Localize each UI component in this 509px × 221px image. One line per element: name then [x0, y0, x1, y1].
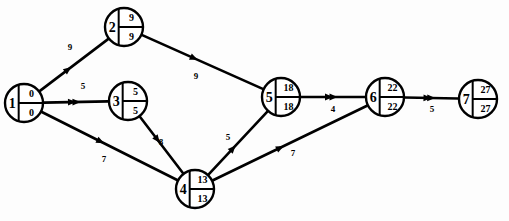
edge-arrowhead [72, 99, 80, 106]
edge-weight-label: 9 [68, 42, 73, 52]
node-earliest-time: 9 [129, 12, 134, 23]
edge-weight-label: 4 [331, 104, 336, 114]
node-3[interactable]: 355 [109, 82, 147, 120]
node-id-label: 3 [113, 94, 120, 109]
node-id-label: 4 [180, 182, 187, 197]
edge-weight-label: 8 [159, 137, 164, 147]
edge-5-6 [301, 94, 365, 101]
node-latest-time: 5 [133, 105, 138, 116]
node-2[interactable]: 299 [105, 8, 143, 46]
edge-2-5 [142, 35, 262, 89]
node-1[interactable]: 100 [5, 84, 43, 122]
node-earliest-time: 0 [29, 88, 34, 99]
node-earliest-time: 13 [198, 174, 208, 185]
node-5[interactable]: 51818 [262, 78, 300, 116]
edge-line [213, 106, 367, 181]
node-id-label: 6 [370, 90, 377, 105]
node-latest-time: 18 [284, 101, 294, 112]
node-id-label: 7 [463, 92, 470, 107]
network-diagram-canvas: 10029935541313518186222272727 957985745 [0, 0, 509, 221]
node-earliest-time: 27 [481, 84, 491, 95]
edge-arrowhead [329, 94, 337, 101]
edge-weight-label: 7 [291, 148, 296, 158]
node-earliest-time: 18 [284, 82, 294, 93]
node-6[interactable]: 62222 [366, 78, 404, 116]
edge-line [42, 112, 177, 180]
node-7[interactable]: 72727 [459, 80, 497, 118]
edge-weight-label: 5 [430, 104, 435, 114]
edge-weight-label: 9 [194, 71, 199, 81]
nodes-layer: 10029935541313518186222272727 [5, 8, 497, 208]
node-id-label: 2 [109, 20, 116, 35]
node-earliest-time: 5 [133, 86, 138, 97]
edge-line [209, 112, 268, 175]
edge-1-4 [42, 112, 177, 180]
node-latest-time: 9 [129, 31, 134, 42]
node-latest-time: 0 [29, 107, 34, 118]
node-latest-time: 22 [388, 101, 398, 112]
edge-1-3 [44, 99, 108, 106]
node-latest-time: 13 [198, 193, 208, 204]
edge-4-6 [213, 106, 367, 181]
node-id-label: 1 [9, 96, 16, 111]
edge-weight-label: 5 [226, 132, 231, 142]
edge-1-2 [40, 39, 108, 91]
node-id-label: 5 [266, 90, 273, 105]
edge-line [40, 39, 108, 91]
network-diagram-svg: 10029935541313518186222272727 957985745 [0, 0, 509, 221]
edge-6-7 [405, 94, 458, 101]
edge-4-5 [209, 112, 268, 175]
edge-weight-label: 5 [81, 81, 86, 91]
edge-line [142, 35, 262, 89]
node-4[interactable]: 41313 [176, 170, 214, 208]
edge-arrowhead [427, 95, 435, 102]
node-latest-time: 27 [481, 103, 491, 114]
node-earliest-time: 22 [388, 82, 398, 93]
edge-weight-label: 7 [102, 154, 107, 164]
